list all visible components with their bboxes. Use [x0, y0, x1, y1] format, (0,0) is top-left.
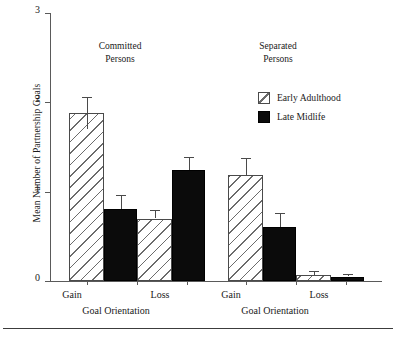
bottom-divider	[3, 328, 393, 329]
panel-title-committed: Committed Persons	[70, 40, 170, 65]
y-axis-line	[50, 13, 51, 281]
y-tick-0: 0	[45, 281, 50, 282]
legend: Early Adulthood Late Midlife	[258, 88, 341, 126]
x-tick-p1-gain	[87, 281, 88, 285]
category-label-separated-gain: Gain	[201, 289, 261, 300]
bar-chart-figure: Mean Number of Partnership Goals 3 2 1 0	[0, 0, 396, 337]
x-tick-p2-loss	[346, 281, 347, 285]
bar-separated-gain-early-adulthood	[228, 175, 263, 281]
y-axis-title: Mean Number of Partnership Goals	[32, 38, 42, 268]
y-tick-3: 3	[45, 13, 50, 14]
bar-committed-gain-late-midlife	[104, 209, 137, 281]
legend-swatch-hatch-icon	[258, 92, 270, 104]
y-tick-label-2: 2	[35, 94, 40, 104]
bar-separated-loss-early-adulthood	[296, 275, 331, 281]
x-tick-p2-gain	[246, 281, 247, 285]
y-tick-label-0: 0	[35, 273, 40, 283]
bar-committed-gain-early-adulthood	[69, 113, 104, 281]
bar-committed-loss-early-adulthood	[137, 219, 172, 282]
legend-swatch-solid-icon	[258, 111, 270, 123]
x-axis-line	[50, 281, 382, 282]
x-axis-title-separated: Goal Orientation	[215, 305, 335, 316]
panel-title-separated: Separated Persons	[228, 40, 328, 65]
category-label-committed-loss: Loss	[130, 289, 190, 300]
x-axis-title-committed: Goal Orientation	[56, 305, 176, 316]
y-tick-1: 1	[45, 192, 50, 193]
bar-separated-loss-late-midlife	[331, 277, 364, 282]
bar-committed-loss-late-midlife	[172, 170, 205, 281]
y-tick-label-1: 1	[35, 184, 40, 194]
x-tick-p1-mid	[137, 281, 138, 285]
x-tick-p2-mid	[296, 281, 297, 285]
y-tick-2: 2	[45, 102, 50, 103]
legend-label-late-midlife: Late Midlife	[277, 112, 325, 122]
legend-item-early-adulthood: Early Adulthood	[258, 88, 341, 107]
x-tick-p1-loss	[187, 281, 188, 285]
legend-label-early-adulthood: Early Adulthood	[277, 93, 341, 103]
bar-separated-gain-late-midlife	[263, 227, 296, 281]
category-label-committed-gain: Gain	[42, 289, 102, 300]
legend-item-late-midlife: Late Midlife	[258, 107, 341, 126]
category-label-separated-loss: Loss	[289, 289, 349, 300]
y-tick-label-3: 3	[35, 5, 40, 15]
